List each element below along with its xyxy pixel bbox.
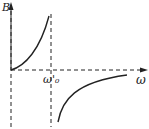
asymptote-label: ω'₀ [43,74,59,85]
curve-left-branch [11,16,49,70]
curve-right-branch [58,75,127,122]
x-axis-arrow-icon [140,68,148,73]
x-axis-label: ω [136,74,146,86]
y-axis-label: B [2,2,10,13]
diagram-canvas [0,0,149,129]
